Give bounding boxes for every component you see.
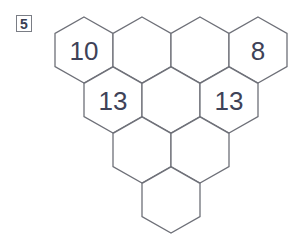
hex-value: 13 bbox=[215, 86, 244, 116]
hex-value: 8 bbox=[251, 36, 265, 66]
hex-value: 13 bbox=[99, 86, 128, 116]
hexagon-pyramid: 1081313 bbox=[0, 0, 308, 243]
hex-value: 10 bbox=[70, 36, 99, 66]
